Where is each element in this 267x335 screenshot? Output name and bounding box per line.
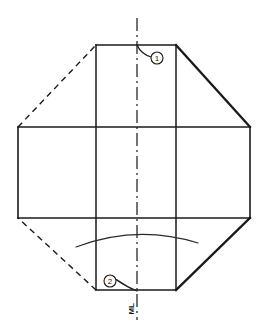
- callout-1-label: 1: [155, 54, 160, 63]
- octagon-outline: [18, 45, 250, 290]
- callout-1[interactable]: 1: [137, 45, 163, 64]
- top-right-diagonal: [176, 45, 250, 127]
- top-left-diagonal: [18, 45, 96, 127]
- bottom-left-diagonal: [18, 218, 96, 290]
- octagon-pattern-diagram: 1 2 ML: [0, 0, 267, 335]
- bottom-right-diagonal: [176, 218, 250, 290]
- ml-marking-label: ML: [127, 303, 136, 314]
- technical-drawing-canvas: 1 2 ML: [0, 0, 267, 335]
- callout-2-label: 2: [108, 277, 113, 286]
- callout-2[interactable]: 2: [104, 275, 137, 291]
- callout-1-leader: [137, 45, 151, 57]
